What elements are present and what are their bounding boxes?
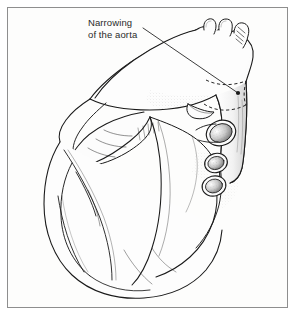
illustration-ink (44, 19, 253, 298)
heart-illustration (0, 0, 296, 316)
annotation-label-line-2: of the aorta (88, 29, 137, 41)
figure-root: Narrowing of the aorta (0, 0, 296, 316)
annotation-label-line-1: Narrowing (88, 17, 137, 29)
annotation-label: Narrowing of the aorta (88, 17, 137, 40)
aortic-fold (187, 104, 214, 119)
